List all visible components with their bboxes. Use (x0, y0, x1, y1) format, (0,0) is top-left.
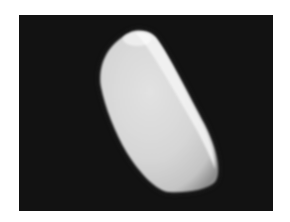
figure (0, 0, 290, 222)
photo (19, 15, 273, 211)
grain-cap-highlight (123, 32, 151, 46)
rice-grain-image (19, 15, 273, 211)
figure-caption (18, 213, 138, 222)
